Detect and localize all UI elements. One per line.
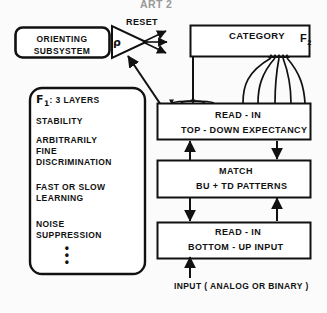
match-label: MATCH bbox=[219, 167, 253, 176]
reset-arrow-fan bbox=[143, 31, 167, 53]
spacer-6 bbox=[36, 212, 140, 219]
match-patterns-label: BU + TD PATTERNS bbox=[196, 182, 287, 191]
f1-item-discrimination: DISCRIMINATION bbox=[36, 157, 140, 168]
f1-item-arbitrarily: ARBITRARILY bbox=[36, 135, 140, 146]
bottomup-input-label: BOTTOM - UP INPUT bbox=[188, 243, 283, 252]
f1-item-noise: NOISE bbox=[36, 219, 140, 230]
f1-item-fast-or-slow: FAST OR SLOW bbox=[36, 182, 140, 193]
orienting-line-1: ORIENTING bbox=[19, 33, 105, 45]
art2-diagram-figure: ART 2 ORIENTING SUBSYSTEM ρ RESET CATEGO… bbox=[0, 0, 327, 313]
f1-item-fine: FINE bbox=[36, 146, 140, 157]
f1-properties-list: F1: 3 LAYERS STABILITY ARBITRARILY FINE … bbox=[36, 94, 140, 266]
f1-heading: F1: 3 LAYERS bbox=[36, 94, 140, 109]
topdown-expectancy-label: TOP - DOWN EXPECTANCY bbox=[181, 126, 307, 135]
spacer-2 bbox=[36, 128, 140, 135]
f1-letter: F bbox=[36, 93, 44, 106]
f2-to-f1-fan bbox=[243, 58, 305, 103]
f2-subscript: 2 bbox=[307, 38, 312, 47]
input-source-label: INPUT ( ANALOG OR BINARY ) bbox=[174, 282, 309, 291]
topdown-readin-label: READ - IN bbox=[215, 111, 261, 120]
spacer-1 bbox=[36, 109, 140, 116]
bottomup-readin-label: READ - IN bbox=[215, 228, 261, 237]
f1-item-stability: STABILITY bbox=[36, 116, 140, 127]
f1-item-suppression: SUPPRESSION bbox=[36, 230, 140, 241]
ellipsis-dot-3: • bbox=[36, 259, 98, 266]
figure-title: ART 2 bbox=[140, 0, 172, 10]
spacer-3 bbox=[36, 168, 140, 175]
spacer-4 bbox=[36, 175, 140, 182]
orienting-subsystem-label: ORIENTING SUBSYSTEM bbox=[19, 33, 105, 57]
f1-ellipsis: • • • bbox=[36, 245, 98, 266]
spacer-5 bbox=[36, 205, 140, 212]
category-box-label: CATEGORY bbox=[229, 31, 285, 41]
f1-heading-rest: : 3 LAYERS bbox=[50, 95, 100, 105]
f1-item-learning: LEARNING bbox=[36, 193, 140, 204]
vigilance-rho-symbol: ρ bbox=[113, 37, 121, 49]
orienting-line-2: SUBSYSTEM bbox=[19, 45, 105, 57]
reset-label: RESET bbox=[126, 18, 158, 27]
f2-fan-arrowheads bbox=[268, 54, 290, 58]
f2-layer-label: F2 bbox=[300, 33, 312, 47]
